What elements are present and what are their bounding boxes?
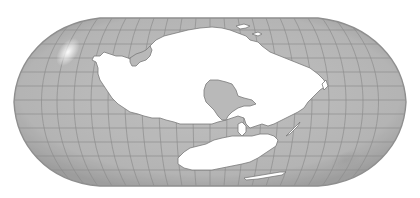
- world-map: [0, 0, 420, 198]
- map-svg: [0, 0, 420, 198]
